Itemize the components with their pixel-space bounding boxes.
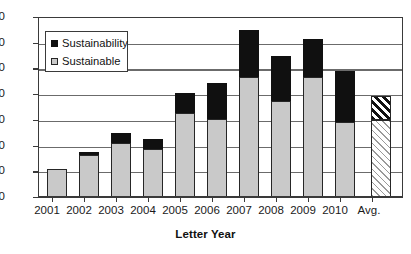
bar-segment-sustainable[interactable] <box>79 155 99 197</box>
bar-group-2008[interactable] <box>271 17 291 197</box>
bar-group-2007[interactable] <box>239 17 259 197</box>
xtick-mark-2010 <box>340 197 341 202</box>
bar-group-2006[interactable] <box>207 17 227 197</box>
xtick-mark-2004 <box>148 197 149 202</box>
ytick-label-40: 40 <box>0 140 5 151</box>
bar-segment-sustainable[interactable] <box>207 119 227 197</box>
ytick-label-20: 20 <box>0 165 5 176</box>
ytick-label-0: 0 <box>0 191 5 202</box>
legend-item-sustainable[interactable]: Sustainable <box>51 54 120 68</box>
bar-group-2010[interactable] <box>335 17 355 197</box>
xtick-mark-2008 <box>276 197 277 202</box>
ytick-label-80: 80 <box>0 88 5 99</box>
xtick-mark-2009 <box>308 197 309 202</box>
x-axis-title: Letter Year <box>0 228 411 240</box>
ytick-label-100: 100 <box>0 62 5 73</box>
xtick-mark-avg <box>372 197 373 202</box>
bar-segment-sustainability[interactable] <box>175 93 195 114</box>
bar-segment-sustainability[interactable] <box>335 71 355 122</box>
xtick-label-avg: Avg. <box>349 204 389 217</box>
xtick-mark-2002 <box>84 197 85 202</box>
bar-segment-sustainability[interactable] <box>111 133 131 143</box>
bar-group-2009[interactable] <box>303 17 323 197</box>
bar-segment-sustainability[interactable] <box>207 83 227 119</box>
ytick-label-60: 60 <box>0 114 5 125</box>
legend-item-sustainability[interactable]: Sustainability <box>51 36 128 50</box>
bar-segment-sustainable-avg[interactable] <box>371 120 391 197</box>
bar-group-2005[interactable] <box>175 17 195 197</box>
bar-segment-sustainability[interactable] <box>79 152 99 155</box>
bar-segment-sustainable[interactable] <box>271 101 291 197</box>
black-square-icon <box>51 40 58 47</box>
bar-segment-sustainable[interactable] <box>47 169 67 197</box>
bar-segment-sustainable[interactable] <box>239 77 259 197</box>
legend: Sustainability Sustainable <box>45 31 128 72</box>
bar-segment-sustainable[interactable] <box>335 122 355 197</box>
bar-segment-sustainability-avg[interactable] <box>371 96 391 120</box>
ytick-label-120: 120 <box>0 37 5 48</box>
xtick-mark-2006 <box>212 197 213 202</box>
bar-segment-sustainable[interactable] <box>175 113 195 197</box>
xtick-mark-2003 <box>116 197 117 202</box>
bar-chart: 140 120 100 80 60 40 20 0 <box>0 0 411 254</box>
xtick-mark-2007 <box>244 197 245 202</box>
xtick-mark-2005 <box>180 197 181 202</box>
bar-segment-sustainable[interactable] <box>143 149 163 197</box>
bar-segment-sustainability[interactable] <box>143 139 163 149</box>
bar-segment-sustainable[interactable] <box>303 77 323 197</box>
bar-segment-sustainability[interactable] <box>303 39 323 78</box>
bar-segment-sustainability[interactable] <box>271 56 291 101</box>
xtick-mark-2001 <box>52 197 53 202</box>
gray-square-icon <box>51 58 58 65</box>
bar-group-2004[interactable] <box>143 17 163 197</box>
ytick-label-140: 140 <box>0 11 5 22</box>
bar-segment-sustainability[interactable] <box>239 30 259 78</box>
bar-group-avg[interactable] <box>371 17 391 197</box>
legend-label: Sustainability <box>62 38 128 49</box>
legend-label: Sustainable <box>62 56 120 67</box>
bar-segment-sustainable[interactable] <box>111 143 131 197</box>
x-axis-line <box>38 196 403 198</box>
